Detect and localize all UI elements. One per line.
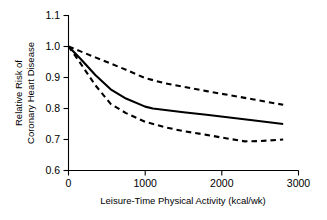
- x-tick-label-1000: 1000: [134, 177, 158, 189]
- y-tick-label-1.1: 1.1: [45, 9, 60, 21]
- y-axis-title-line2: Coronary Heart Disease: [25, 42, 36, 144]
- y-tick-label-0.6: 0.6: [45, 164, 60, 176]
- y-axis-ticks: [64, 16, 69, 171]
- lower-confidence-limit-curve: [69, 47, 284, 142]
- y-tick-label-0.9: 0.9: [45, 71, 60, 83]
- x-tick-label-0: 0: [66, 177, 72, 189]
- y-axis-title-line1: Relative Risk of: [13, 60, 24, 126]
- chart-figure: 1.1 1.0 0.9 0.8 0.7 0.6 0 1000 2000 3000…: [0, 0, 327, 220]
- relative-risk-line-chart: 1.1 1.0 0.9 0.8 0.7 0.6 0 1000 2000 3000…: [0, 0, 327, 220]
- y-tick-label-0.8: 0.8: [45, 102, 60, 114]
- y-tick-label-0.7: 0.7: [45, 133, 60, 145]
- x-tick-label-2000: 2000: [210, 177, 234, 189]
- upper-confidence-limit-curve: [69, 47, 284, 105]
- x-axis-title: Leisure-Time Physical Activity (kcal/wk): [100, 195, 265, 206]
- y-tick-label-1.0: 1.0: [45, 40, 60, 52]
- x-tick-label-3000: 3000: [287, 177, 311, 189]
- x-axis-ticks: [69, 171, 299, 176]
